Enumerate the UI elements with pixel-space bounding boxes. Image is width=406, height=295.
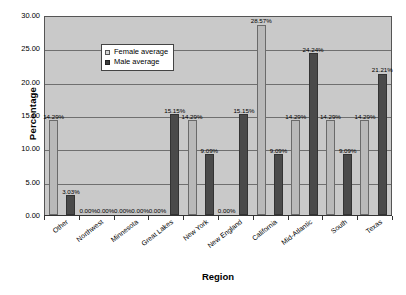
bar-slot: 9.09% (201, 17, 218, 215)
y-tick-label: 15.00 (10, 112, 40, 120)
bar-value-label: 3.03% (62, 189, 80, 195)
bar-chart: Percentage 30.0025.0020.0015.0010.005.00… (0, 0, 406, 295)
category-group: 14.29%9.09% (183, 17, 218, 215)
y-tick-label: 20.00 (10, 79, 40, 87)
bar-male: 3.03% (66, 195, 75, 215)
y-tick-label: 0.00 (10, 212, 40, 220)
category-group: 0.00%15.15% (218, 17, 253, 215)
bar-female: 14.29% (291, 120, 300, 215)
bar-male: 9.09% (205, 154, 214, 215)
bar-value-label: 9.09% (201, 148, 219, 154)
bar-value-label: 14.29% (354, 114, 375, 120)
bar-value-label: 9.09% (270, 148, 288, 154)
bar-value-label: 28.57% (251, 18, 272, 24)
chart-legend: Female average Male average (101, 44, 174, 71)
bar-value-label: 9.09% (339, 148, 357, 154)
bar-slot: 14.29% (183, 17, 200, 215)
x-axis-category-labels: OtherNorthwestMinnesotaGreat LakesNew Yo… (44, 218, 392, 266)
bar-male: 9.09% (343, 154, 352, 215)
bar-female: 14.29% (326, 120, 335, 215)
legend-swatch-male-icon (105, 60, 110, 65)
category-group: 14.29%24.24% (287, 17, 322, 215)
bar-value-label: 0.00% (149, 208, 167, 214)
bar-value-label: 14.29% (182, 114, 203, 120)
legend-label-male: Male average (114, 58, 159, 66)
bar-value-label: 0.00% (97, 208, 115, 214)
bar-value-label: 14.29% (285, 114, 306, 120)
y-tick-label: 10.00 (10, 145, 40, 153)
bar-value-label: 0.00% (218, 208, 236, 214)
bar-female: 14.29% (188, 120, 197, 215)
category-group: 14.29%21.21% (356, 17, 391, 215)
bar-male: 21.21% (378, 74, 387, 215)
bar-male: 15.15% (170, 114, 179, 215)
legend-item-male: Male average (105, 57, 168, 67)
bar-male: 9.09% (274, 154, 283, 215)
category-group: 14.29%9.09% (322, 17, 357, 215)
bar-slot: 15.15% (235, 17, 252, 215)
bar-male: 24.24% (309, 53, 318, 215)
x-axis-title: Region (44, 271, 392, 282)
bar-value-label: 15.15% (233, 108, 254, 114)
category-group: 28.57%9.09% (253, 17, 288, 215)
bar-female: 28.57% (257, 25, 266, 215)
bar-slot: 14.29% (45, 17, 62, 215)
bar-value-label: 21.21% (372, 67, 393, 73)
bar-value-label: 14.29% (43, 114, 64, 120)
bar-slot: 28.57% (253, 17, 270, 215)
bar-slot: 0.00% (80, 17, 97, 215)
bar-slot: 3.03% (62, 17, 79, 215)
y-tick-label: 5.00 (10, 179, 40, 187)
x-tick (392, 216, 393, 220)
bar-slot: 14.29% (356, 17, 373, 215)
legend-label-female: Female average (114, 48, 168, 56)
bar-female: 14.29% (49, 120, 58, 215)
bars-layer: 14.29%3.03%0.00%0.00%0.00%0.00%0.00%15.1… (45, 17, 391, 215)
bar-value-label: 0.00% (114, 208, 132, 214)
y-tick-label: 30.00 (10, 12, 40, 20)
legend-swatch-female-icon (105, 50, 110, 55)
category-group: 14.29%3.03% (45, 17, 80, 215)
bar-slot: 14.29% (322, 17, 339, 215)
bar-slot: 0.00% (218, 17, 235, 215)
bar-value-label: 0.00% (79, 208, 97, 214)
y-tick-label: 25.00 (10, 45, 40, 53)
bar-male: 15.15% (239, 114, 248, 215)
bar-value-label: 0.00% (131, 208, 149, 214)
bar-value-label: 14.29% (320, 114, 341, 120)
bar-slot: 21.21% (374, 17, 391, 215)
bar-female: 14.29% (360, 120, 369, 215)
legend-item-female: Female average (105, 47, 168, 57)
bar-value-label: 24.24% (303, 47, 324, 53)
plot-area: 14.29%3.03%0.00%0.00%0.00%0.00%0.00%15.1… (44, 16, 392, 216)
